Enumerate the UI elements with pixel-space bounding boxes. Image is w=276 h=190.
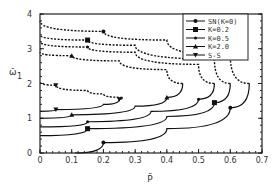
- legend-entry: K=0.2: [208, 26, 229, 34]
- x-tick-label: 0.5: [192, 156, 205, 165]
- y-tick-label: 3: [27, 45, 32, 54]
- series-K=2.0: [40, 52, 183, 118]
- legend-entry: SN(K=0): [208, 18, 238, 26]
- legend-entry: K=0.5: [208, 35, 229, 43]
- y-tick-label: 2: [27, 80, 32, 89]
- y-axis-sub: 1: [17, 72, 22, 81]
- x-tick-label: 0.4: [160, 156, 173, 165]
- legend-entry: S-S: [208, 52, 221, 60]
- y-tick-label: 4: [27, 10, 32, 19]
- stability-chart: 00.10.20.30.40.50.60.701234 SN(K=0)K=0.2…: [0, 0, 276, 190]
- legend-entry: K=2.0: [208, 43, 229, 51]
- x-tick-label: 0.3: [129, 156, 142, 165]
- x-tick-label: 0.1: [65, 156, 78, 165]
- x-tick-label: 0.7: [256, 156, 269, 165]
- x-tick-label: 0.6: [224, 156, 237, 165]
- y-tick-label: 1: [27, 114, 32, 123]
- legend: SN(K=0)K=0.2K=0.5K=2.0S-S: [183, 14, 248, 60]
- y-tick-label: 0: [27, 149, 32, 158]
- x-axis-label: P̄: [147, 173, 153, 184]
- x-tick-label: 0.2: [97, 156, 110, 165]
- y-axis-label: ω̄: [9, 67, 17, 77]
- series-S-S: [40, 82, 122, 112]
- x-tick-label: 0: [37, 156, 42, 165]
